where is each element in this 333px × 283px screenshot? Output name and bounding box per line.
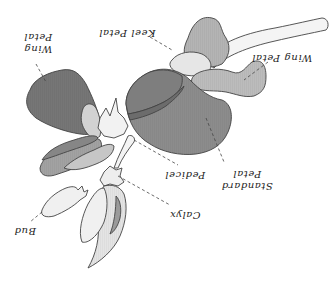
label-calyx: Calyx bbox=[169, 210, 200, 221]
bud-shape bbox=[42, 186, 88, 217]
label-standard-petal: Standard Petal bbox=[221, 169, 273, 192]
leader-bud bbox=[30, 212, 42, 222]
label-standard-line1: Standard bbox=[221, 181, 273, 192]
label-standard-line2: Petal bbox=[233, 169, 262, 180]
lower-wing-petals-shape bbox=[40, 136, 114, 176]
label-wing-petal-right: Wing Petal bbox=[252, 53, 313, 64]
label-wing-petal-left: Wing Petal bbox=[24, 32, 53, 55]
label-bud: Bud bbox=[14, 226, 37, 237]
label-keel-petal: Keel Petal bbox=[99, 28, 157, 39]
flower-diagram: Wing Petal Keel Petal Wing Petal Standar… bbox=[0, 0, 333, 283]
keel-petal-shape bbox=[170, 17, 229, 75]
pedicel-shape bbox=[114, 135, 135, 168]
label-wing-left-line1: Wing bbox=[24, 44, 53, 55]
flower-calyx-center-shape bbox=[98, 98, 128, 138]
wing-petal-left-shape bbox=[27, 70, 101, 138]
label-pedicel: Pedicel bbox=[165, 170, 207, 181]
label-wing-left-line2: Petal bbox=[24, 32, 53, 43]
calyx-shape bbox=[80, 166, 126, 268]
